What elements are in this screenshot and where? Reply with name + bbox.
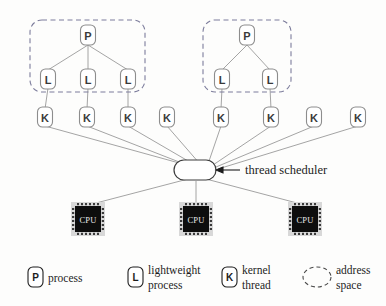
kernel-thread-node[interactable]: K — [160, 107, 175, 127]
process-node-label: P — [243, 30, 250, 42]
kernel-thread-node[interactable]: K — [38, 107, 53, 127]
legend-kernel-thread-badge-label: K — [226, 272, 234, 283]
legend-process-badge-label: P — [32, 272, 39, 283]
cpu-chip-label: CPU — [296, 215, 313, 225]
legend-process-label: process — [48, 272, 83, 285]
edges-process-to-lwp-group2 — [222, 45, 270, 70]
edges-process-to-lwp-group1 — [48, 45, 128, 70]
kernel-thread-node-label: K — [217, 112, 225, 124]
cpu-chip-label: CPU — [79, 215, 96, 225]
lwp-node-label: L — [85, 74, 92, 86]
lwp-node[interactable]: L — [263, 69, 278, 89]
legend-item-address-space: address space — [303, 264, 371, 292]
process-node[interactable]: P — [81, 25, 96, 45]
kernel-thread-node-label: K — [83, 112, 91, 124]
lwp-node-label: L — [219, 74, 226, 86]
edges-scheduler-to-cpus — [96, 179, 297, 203]
kernel-thread-node-label: K — [124, 112, 132, 124]
lwp-node[interactable]: L — [121, 69, 136, 89]
lwp-node[interactable]: L — [41, 69, 56, 89]
scheduler-annotation-label: thread scheduler — [245, 163, 328, 177]
kernel-thread-node[interactable]: K — [214, 107, 229, 127]
thread-scheduler-diagram: P P L L L L L K — [0, 0, 386, 306]
lwp-node-label: L — [45, 74, 52, 86]
legend-address-space-label-line2: space — [336, 279, 362, 292]
annotation-arrow-head — [216, 167, 223, 173]
kernel-thread-node-label: K — [267, 112, 275, 124]
kernel-thread-node[interactable]: K — [121, 107, 136, 127]
lwp-node[interactable]: L — [215, 69, 230, 89]
kernel-thread-node[interactable]: K — [307, 107, 322, 127]
legend-address-space-label-line1: address — [336, 264, 371, 276]
legend-lwp-badge-label: L — [132, 272, 138, 283]
kernel-thread-node[interactable]: K — [80, 107, 95, 127]
diagram-canvas: P P L L L L L K — [0, 0, 386, 306]
legend-kernel-thread-label-line2: thread — [242, 279, 271, 291]
kernel-thread-node[interactable]: K — [351, 107, 366, 127]
kernel-thread-node-label: K — [163, 112, 171, 124]
cpu-chip-label: CPU — [187, 215, 204, 225]
lwp-node-label: L — [267, 74, 274, 86]
legend-lwp-label-line1: lightweight — [148, 264, 201, 277]
lwp-node[interactable]: L — [81, 69, 96, 89]
legend-item-kernel-thread: K kernel thread — [222, 264, 271, 291]
lwp-node-label: L — [125, 74, 132, 86]
process-node-label: P — [84, 30, 91, 42]
process-node[interactable]: P — [240, 25, 255, 45]
cpu-chip[interactable]: CPU — [71, 202, 105, 236]
kernel-thread-node[interactable]: K — [264, 107, 279, 127]
cpu-chip[interactable]: CPU — [288, 202, 322, 236]
kernel-thread-node-label: K — [41, 112, 49, 124]
legend-address-space-icon — [303, 267, 331, 287]
legend-kernel-thread-label-line1: kernel — [242, 264, 271, 276]
legend: P process L lightweight process K kernel… — [28, 264, 371, 292]
legend-item-process: P process — [28, 267, 83, 287]
legend-lwp-label-line2: process — [148, 279, 183, 292]
legend-item-lightweight-process: L lightweight process — [128, 264, 201, 292]
kernel-thread-node-label: K — [354, 112, 362, 124]
scheduler-annotation: thread scheduler — [216, 163, 328, 177]
edges-lwp-to-kernel-thread — [45, 88, 271, 109]
scheduler-node[interactable] — [174, 160, 216, 180]
cpu-chip[interactable]: CPU — [179, 202, 213, 236]
kernel-thread-node-label: K — [310, 112, 318, 124]
